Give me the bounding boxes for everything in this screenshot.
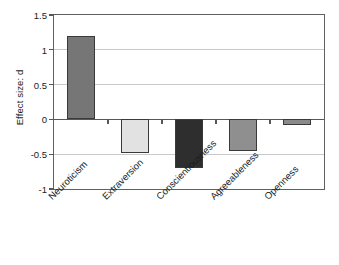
y-axis-tick-label: 0.5	[34, 79, 47, 90]
y-axis-tick	[49, 14, 54, 15]
y-axis-title: Effect size: d	[14, 43, 25, 153]
y-axis-tick-label: -0.5	[31, 149, 47, 160]
x-axis-tick	[107, 119, 108, 124]
y-axis-tick	[49, 119, 54, 120]
bar-neuroticism	[67, 36, 95, 120]
bar-agreeableness	[229, 119, 257, 151]
bar-openness	[283, 119, 311, 125]
y-axis-tick	[49, 154, 54, 155]
y-axis-tick-label: 1	[42, 44, 47, 55]
bar-chart-figure: Effect size: d -1-0.500.511.5 Neuroticis…	[0, 0, 339, 265]
x-axis-tick	[161, 119, 162, 124]
x-axis-tick	[215, 119, 216, 124]
y-axis-tick	[49, 49, 54, 50]
y-axis-tick-label: 0	[42, 114, 47, 125]
x-axis-tick	[269, 119, 270, 124]
y-axis-tick-label: 1.5	[34, 10, 47, 21]
bar-extraversion	[121, 119, 149, 152]
y-axis-tick	[49, 84, 54, 85]
